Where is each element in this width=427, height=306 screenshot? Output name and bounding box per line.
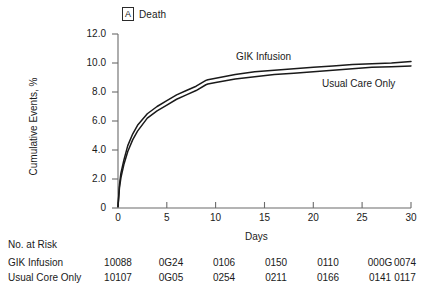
risk-cell-usual-30: 0117 (385, 272, 425, 283)
y-axis-label: Cumulative Events, % (28, 47, 39, 207)
figure-caption-cropped (8, 299, 418, 306)
risk-cell-gik-30: 0074 (385, 257, 425, 268)
y-tick-label-12: 12.0 (72, 28, 106, 39)
curve-annotation-usual-care-only: Usual Care Only (322, 78, 395, 89)
risk-cell-gik-20: 0110 (308, 257, 348, 268)
x-tick-label-15: 15 (250, 212, 280, 223)
x-axis-label: Days (245, 231, 268, 242)
x-tick-label-5: 5 (152, 212, 182, 223)
risk-cell-usual-0: 10107 (98, 272, 138, 283)
risk-cell-usual-10: 0254 (204, 272, 244, 283)
risk-cell-gik-0: 10088 (98, 257, 138, 268)
risk-cell-gik-5: 0G24 (151, 257, 191, 268)
risk-cell-usual-5: 0G05 (151, 272, 191, 283)
y-tick-label-2: 2.0 (72, 173, 106, 184)
y-tick-label-4: 4.0 (72, 144, 106, 155)
x-tick-label-20: 20 (298, 212, 328, 223)
x-tick-label-30: 30 (396, 212, 426, 223)
risk-row-label-gik-infusion: GIK Infusion (8, 257, 63, 268)
risk-table-heading: No. at Risk (8, 239, 57, 250)
y-axis-ticks (112, 34, 118, 208)
x-tick-label-0: 0 (103, 212, 133, 223)
y-tick-label-8: 8.0 (72, 86, 106, 97)
risk-cell-gik-15: 0150 (256, 257, 296, 268)
risk-cell-usual-20: 0166 (308, 272, 348, 283)
y-tick-label-6: 6.0 (72, 115, 106, 126)
x-axis-ticks (118, 202, 411, 208)
x-tick-label-10: 10 (201, 212, 231, 223)
figure-panel-a-death: A Death Cumula (0, 0, 427, 306)
y-tick-label-10: 10.0 (72, 57, 106, 68)
x-tick-label-25: 25 (347, 212, 377, 223)
y-tick-label-0: 0 (72, 202, 106, 213)
curve-annotation-gik-infusion: GIK Infusion (236, 51, 291, 62)
risk-cell-gik-10: 0106 (204, 257, 244, 268)
risk-row-label-usual-core-only: Usual Core Only (8, 272, 81, 283)
risk-cell-usual-15: 0211 (256, 272, 296, 283)
